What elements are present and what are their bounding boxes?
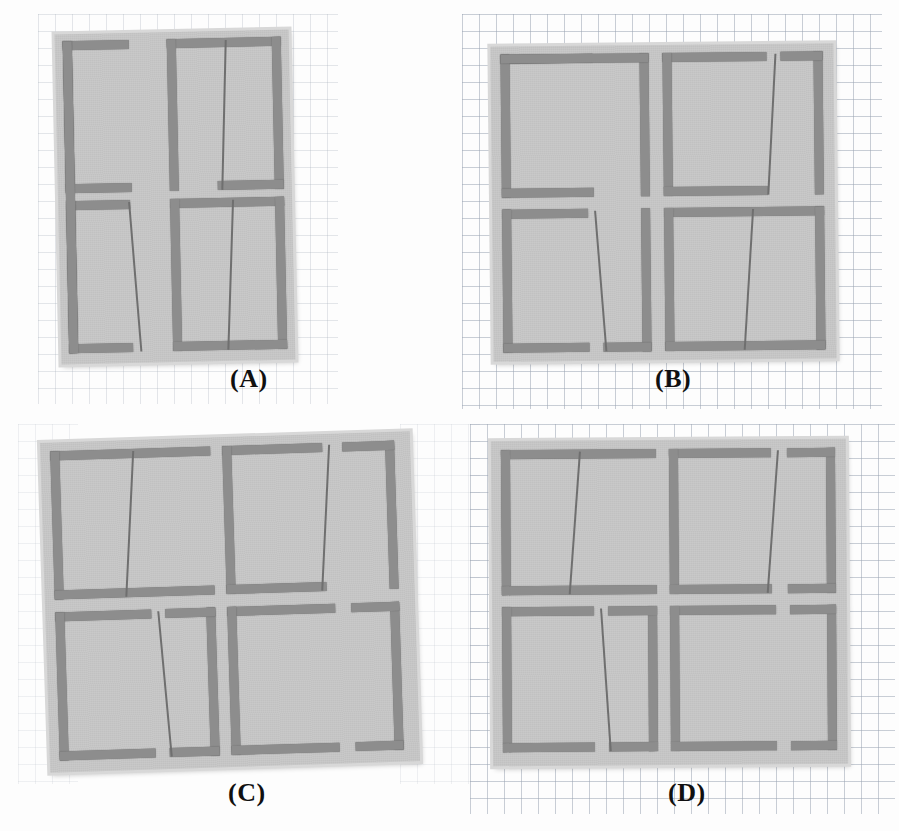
ring-top-segment (662, 52, 766, 62)
unit-cell-b-0-1 (662, 51, 823, 196)
ring-bottom-segment (670, 584, 772, 594)
ring-hairline-slot (600, 608, 612, 751)
ring-right-segment (272, 37, 284, 189)
ring-left-segment (502, 607, 512, 752)
ring-left-segment (55, 612, 69, 760)
ring-top-segment (227, 604, 335, 616)
unit-cell-d-0-0 (501, 449, 657, 595)
ring-bottom-segment (502, 188, 594, 198)
ring-hairline-slot (125, 451, 134, 597)
ring-top-segment-right (787, 448, 835, 457)
ring-top-segment-right (780, 51, 822, 60)
ring-hairline-slot (744, 209, 754, 350)
ring-bottom-segment (173, 340, 287, 351)
ring-right-segment (275, 197, 287, 349)
ring-left-segment (502, 210, 512, 353)
ring-top-segment-right (790, 605, 836, 614)
ring-left-segment (170, 199, 182, 351)
ring-bottom-segment (55, 585, 215, 599)
ring-left-segment (662, 53, 672, 196)
ring-hairline-slot (128, 202, 142, 352)
ring-left-segment (500, 55, 510, 198)
ring-top-segment (502, 607, 594, 617)
ring-left-segment (501, 450, 511, 595)
ring-bottom-segment (503, 743, 595, 753)
unit-cell-a-0-0 (63, 39, 166, 193)
ring-left-segment (669, 449, 679, 594)
ring-left-segment (222, 446, 236, 594)
ring-top-segment-right (165, 607, 215, 618)
ring-right-segment (390, 602, 404, 750)
ring-right-segment (813, 51, 823, 194)
panel-caption-a: (A) (230, 364, 268, 394)
unit-cell-grid-b (490, 43, 836, 362)
unit-cell-d-1-1 (670, 605, 837, 751)
ring-bottom-segment-right (791, 741, 837, 750)
unit-cell-a-1-1 (170, 197, 287, 351)
ring-top-segment (170, 197, 284, 208)
ring-right-segment (385, 441, 399, 589)
ring-hairline-slot (321, 445, 330, 591)
ring-top-segment (670, 605, 776, 615)
ring-hairline-slot (594, 211, 607, 352)
ring-hairline-slot (227, 200, 234, 350)
unit-cell-c-0-0 (50, 447, 215, 600)
ring-bottom-segment-right (170, 746, 220, 757)
ring-hairline-slot (569, 452, 581, 595)
panel-caption-d: (D) (668, 778, 706, 808)
ring-bottom-segment (218, 180, 284, 190)
unit-cell-grid-d (491, 439, 848, 766)
ring-top-segment-right (608, 606, 657, 615)
ring-right-segment (641, 208, 651, 351)
ring-left-segment (167, 39, 179, 191)
unit-cell-b-1-0 (502, 208, 651, 353)
unit-cell-a-0-1 (167, 37, 284, 191)
ring-top-segment-right (342, 441, 394, 452)
unit-cell-grid-c (40, 431, 420, 772)
ring-hairline-slot (767, 450, 779, 593)
ring-left-segment (50, 451, 64, 599)
ring-top-segment (664, 206, 824, 217)
figure-canvas: (A) (0, 0, 899, 831)
ring-right-segment (639, 53, 649, 196)
unit-cell-c-1-0 (55, 607, 220, 760)
ring-bottom-segment-right (355, 741, 403, 752)
ring-right-segment (826, 448, 836, 593)
panel-caption-c: (C) (228, 778, 266, 808)
ring-bottom-segment-right (609, 742, 658, 751)
ring-bottom-segment-right (603, 342, 651, 352)
panel-d (491, 439, 848, 766)
ring-top-rail-b (500, 53, 648, 64)
unit-cell-d-0-1 (669, 448, 836, 594)
ring-bottom-segment (671, 741, 777, 751)
panel-caption-b: (B) (655, 364, 691, 394)
ring-bottom-segment-right (788, 584, 836, 593)
ring-top-segment (55, 609, 151, 621)
ring-right-segment (827, 605, 837, 750)
ring-bottom-segment (502, 585, 657, 595)
ring-bottom-segment (60, 748, 156, 760)
ring-right-segment (815, 206, 825, 349)
unit-cell-c-0-1 (222, 441, 399, 594)
ring-hairline-slot (157, 611, 172, 757)
unit-cell-d-1-0 (502, 606, 658, 752)
ring-top-segment (222, 443, 322, 455)
ring-left-segment (664, 208, 674, 351)
ring-bottom-segment (226, 582, 326, 594)
ring-hairline-slot (221, 40, 226, 190)
ring-left-segment (227, 607, 241, 755)
panel-a (55, 30, 296, 365)
ring-top-segment (66, 200, 130, 210)
unit-cell-grid-a (55, 30, 296, 365)
ring-top-segment (50, 447, 210, 461)
panel-b (490, 43, 836, 362)
ring-top-segment (669, 448, 771, 458)
unit-cell-c-1-1 (227, 602, 404, 755)
ring-bottom-segment (664, 186, 768, 196)
ring-bottom-segment (503, 343, 589, 353)
unit-cell-a-1-0 (66, 199, 169, 353)
ring-top-segment (63, 40, 129, 50)
ring-bottom-segment (232, 743, 340, 755)
ring-bottom-segment (66, 183, 132, 193)
unit-cell-b-1-1 (664, 206, 825, 351)
